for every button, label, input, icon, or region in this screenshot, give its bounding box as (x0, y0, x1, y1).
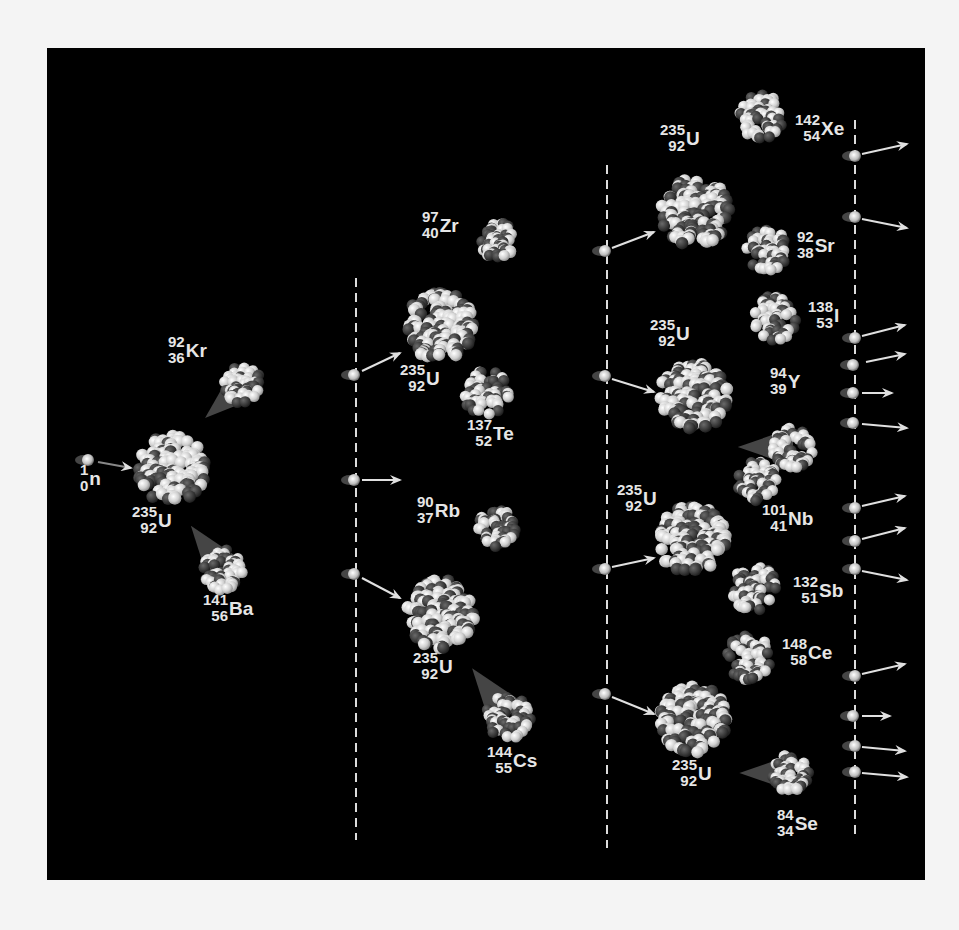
nucleus-u235-gen3d (655, 681, 733, 759)
nucleus-i138 (750, 291, 801, 345)
atomic-number: 55 (487, 760, 512, 776)
label-u235-gen3c: 23592U (617, 482, 657, 514)
label-u235-gen3d: 23592U (672, 757, 712, 789)
label-ba141: 14156Ba (203, 592, 253, 624)
element-symbol: Sr (815, 236, 835, 255)
neutron-17 (842, 563, 907, 580)
nucleus-u235-gen3c (655, 501, 732, 576)
nucleus-u235-gen3b (655, 358, 734, 434)
neutron-arrow-icon (862, 325, 905, 336)
mass-number: 132 (793, 574, 818, 590)
element-symbol: U (676, 324, 690, 343)
neutron-14 (840, 417, 907, 429)
label-u235-gen3b: 23592U (650, 317, 690, 349)
atomic-number: 36 (168, 350, 185, 366)
neutron-arrow-icon (362, 353, 400, 371)
mass-number: 97 (422, 209, 439, 225)
neutron-arrow-icon (612, 558, 654, 567)
atomic-number: 38 (797, 245, 814, 261)
mass-number: 235 (413, 650, 438, 666)
neutron-16 (842, 528, 905, 547)
atomic-number: 58 (782, 652, 807, 668)
element-symbol: Se (795, 814, 818, 833)
neutron-10 (842, 211, 907, 228)
neutron-15 (842, 496, 905, 514)
mass-number: 101 (762, 502, 787, 518)
element-symbol: Xe (821, 119, 844, 138)
neutron-6 (592, 370, 654, 392)
label-u235-gen2b: 23592U (413, 650, 453, 682)
nucleus-sr92 (741, 225, 789, 276)
atomic-number: 52 (467, 433, 492, 449)
neutron-18 (842, 664, 905, 682)
mass-number: 235 (672, 757, 697, 773)
element-symbol: U (698, 764, 712, 783)
element-symbol: I (834, 306, 839, 325)
mass-number: 148 (782, 636, 807, 652)
mass-number: 92 (797, 229, 814, 245)
nucleus-ce148 (722, 630, 775, 685)
label-xe142: 14254Xe (795, 112, 844, 144)
label-te137: 13752Te (467, 417, 514, 449)
neutron-arrow-icon (612, 232, 654, 248)
element-symbol: U (643, 489, 657, 508)
label-sb132: 13251Sb (793, 574, 843, 606)
nucleus-zr97 (476, 218, 517, 262)
atomic-number: 92 (650, 333, 675, 349)
neutron-arrow-icon (866, 354, 905, 362)
mass-number: 1 (80, 462, 88, 478)
label-ce148: 14858Ce (782, 636, 832, 668)
atomic-number: 92 (132, 520, 157, 536)
neutron-19 (840, 710, 890, 722)
element-symbol: Sb (819, 581, 843, 600)
mass-number: 144 (487, 744, 512, 760)
mass-number: 142 (795, 112, 820, 128)
atomic-number: 0 (80, 478, 88, 494)
neutron-arrow-icon (862, 664, 905, 674)
label-kr92: 9236Kr (168, 334, 207, 366)
nucleus-rb90 (473, 505, 520, 552)
mass-number: 235 (132, 504, 157, 520)
mass-number: 235 (660, 122, 685, 138)
neutron-arrow-icon (362, 578, 400, 598)
atomic-number: 37 (417, 510, 434, 526)
atomic-number: 34 (777, 823, 794, 839)
label-i138: 13853I (808, 299, 839, 331)
atomic-number: 53 (808, 315, 833, 331)
element-symbol: Zr (440, 216, 459, 235)
nucleus-u235-gen1 (133, 430, 210, 505)
neutron-2 (341, 353, 400, 381)
element-symbol: Kr (186, 341, 207, 360)
neutron-21 (842, 766, 907, 778)
element-symbol: Y (788, 372, 801, 391)
mass-number: 137 (467, 417, 492, 433)
neutron-arrow-icon (862, 219, 907, 228)
mass-number: 94 (770, 365, 787, 381)
mass-number: 235 (650, 317, 675, 333)
label-incident-neutron: 10n (80, 462, 101, 494)
atomic-number: 92 (617, 498, 642, 514)
label-u235-gen2a: 23592U (400, 362, 440, 394)
label-u235-gen3a: 23592U (660, 122, 700, 154)
nucleus-u235-gen2b (402, 575, 480, 655)
nucleus-xe142 (735, 90, 787, 144)
element-symbol: Rb (435, 501, 460, 520)
element-symbol: n (89, 469, 101, 488)
label-rb90: 9037Rb (417, 494, 460, 526)
mass-number: 235 (617, 482, 642, 498)
neutron-12 (840, 354, 905, 371)
element-symbol: U (439, 657, 453, 676)
atomic-number: 51 (793, 590, 818, 606)
nucleus-u235-gen3a (656, 174, 735, 249)
nucleus-se84 (767, 750, 814, 795)
mass-number: 138 (808, 299, 833, 315)
neutron-7 (592, 558, 654, 575)
atomic-number: 92 (400, 378, 425, 394)
neutron-9 (842, 144, 907, 162)
label-u235-gen1: 23592U (132, 504, 172, 536)
neutron-arrow-icon (612, 697, 654, 714)
element-symbol: U (686, 129, 700, 148)
nucleus-sb132 (728, 562, 781, 615)
nucleus-nb101 (733, 457, 781, 506)
atomic-number: 92 (660, 138, 685, 154)
